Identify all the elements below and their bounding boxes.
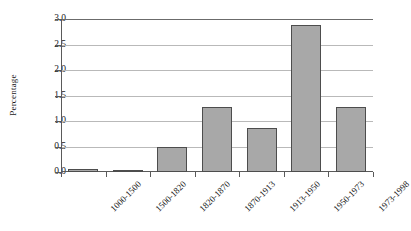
bar [291,25,321,172]
x-axis-tick-mark [61,172,62,177]
bar-slot [150,19,195,172]
bar [202,107,232,172]
x-axis-tick-label: 1820-1870 [198,179,233,214]
x-axis-tick-label: 1950-1973 [332,179,367,214]
bar-slot [61,19,106,172]
x-axis-tick-mark [106,172,107,177]
bar [113,170,143,172]
bars-layer [61,19,373,172]
x-axis-tick-mark [150,172,151,177]
x-axis-tick-label: 1973-1998 [376,179,411,214]
x-axis-tick-mark [239,172,240,177]
x-axis-tick-mark [195,172,196,177]
x-axis-tick-label: 1000-1500 [109,179,144,214]
bar [247,128,277,172]
x-axis-tick-mark [328,172,329,177]
x-axis-tick-label: 1913-1950 [287,179,322,214]
x-axis-tick-label: 1500-1820 [153,179,188,214]
bar-slot [239,19,284,172]
bar [336,107,366,172]
x-axis-tick-mark [284,172,285,177]
bar-slot [328,19,373,172]
y-axis-title: Percentage [8,52,18,138]
bar [157,147,187,173]
x-axis-tick-label: 1870-1913 [242,179,277,214]
bar-slot [195,19,240,172]
bar-slot [106,19,151,172]
bar-slot [284,19,329,172]
x-axis-tick-mark [373,172,374,177]
bar [68,169,98,172]
